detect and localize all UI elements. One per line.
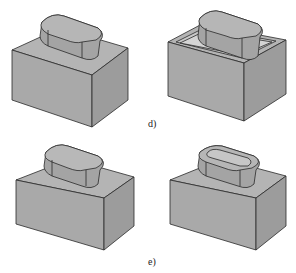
block-d-left xyxy=(12,15,128,127)
figure-canvas xyxy=(0,0,296,273)
block-e-right xyxy=(170,146,286,250)
block-e-left xyxy=(16,145,134,250)
figure-label-e: e) xyxy=(148,256,156,267)
figure-label-d: d) xyxy=(148,118,156,129)
block-d-right xyxy=(168,11,286,121)
